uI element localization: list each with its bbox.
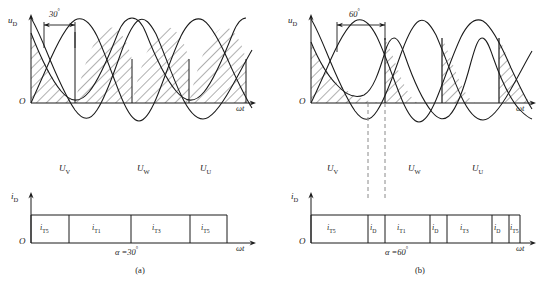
panel-b-voltage-time-axis-label: ωt — [516, 104, 524, 113]
panel-a-voltage-axis-label: uD — [8, 16, 17, 27]
panel-b-current-axis-label: iD — [291, 192, 298, 203]
panel-a-caption: (a) — [0, 266, 280, 275]
panel-a-shaded-regions — [31, 28, 246, 103]
panel-b-caption: (b) — [280, 266, 560, 275]
panel-b-cell-label-3: iT1 — [397, 224, 406, 234]
panel-b-curve-label-uv: UV — [327, 164, 338, 175]
panel-b-angle-marker — [337, 22, 385, 52]
panel-b-alpha-annotation: α =60° — [385, 247, 408, 256]
panel-a-alpha-annotation: α =30° — [115, 247, 138, 256]
panel-b: uD O ωt 60° UV UW UU iD O ωt iT5 iD iT1 … — [280, 0, 560, 284]
panel-a-cell-label-3: iT3 — [152, 224, 161, 234]
panel-a-graphics — [0, 0, 280, 284]
panel-b-curve-label-uu: UU — [472, 164, 483, 175]
rectifier-waveform-figure: uD O ωt 30° UV UW UU iD O ωt iT5 iT1 iT3… — [0, 0, 560, 284]
panel-b-cell-label-4: iD — [432, 224, 438, 234]
panel-b-graphics — [280, 0, 560, 284]
panel-a-curve-label-uu: UU — [200, 164, 211, 175]
panel-a-curve-label-uw: UW — [137, 164, 150, 175]
panel-b-current-cells — [311, 215, 520, 243]
panel-a-current-axis-label: iD — [11, 192, 18, 203]
panel-b-cell-label-2: iD — [370, 224, 376, 234]
panel-b-current-axes — [308, 192, 536, 246]
panel-a-cell-label-2: iT1 — [92, 224, 101, 234]
panel-a-curve-label-uv: UV — [59, 164, 70, 175]
panel-b-current-time-axis-label: ωt — [516, 244, 524, 253]
panel-b-cell-label-7: iT5 — [510, 224, 519, 234]
panel-b-cell-label-6: iD — [494, 224, 500, 234]
panel-b-cell-label-5: iT3 — [460, 224, 469, 234]
panel-b-angle-label: 60° — [349, 9, 360, 18]
panel-a-current-time-axis-label: ωt — [236, 244, 244, 253]
panel-a-voltage-origin-label: O — [19, 97, 26, 106]
panel-a-angle-label: 30° — [49, 9, 60, 18]
panel-b-curve-label-uw: UW — [408, 164, 421, 175]
panel-a: uD O ωt 30° UV UW UU iD O ωt iT5 iT1 iT3… — [0, 0, 280, 284]
panel-b-current-origin-label: O — [299, 237, 306, 246]
panel-b-voltage-axis-label: uD — [288, 16, 297, 27]
panel-a-angle-marker — [44, 22, 75, 48]
panel-a-voltage-time-axis-label: ωt — [236, 104, 244, 113]
panel-a-current-axes — [28, 192, 256, 246]
panel-b-cell-label-1: iT5 — [327, 224, 336, 234]
panel-a-cell-label-4: iT5 — [201, 224, 210, 234]
panel-b-voltage-origin-label: O — [299, 97, 306, 106]
panel-a-current-origin-label: O — [19, 237, 26, 246]
panel-a-current-cells — [31, 215, 227, 243]
panel-a-cell-label-1: iT5 — [40, 224, 49, 234]
